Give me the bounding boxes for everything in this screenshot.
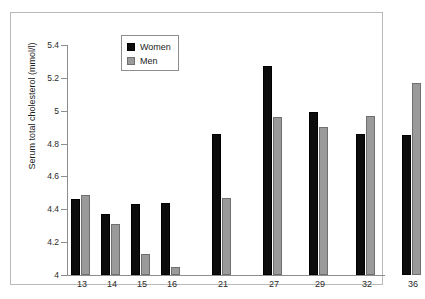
x-axis-tick-label: 16 (157, 279, 187, 289)
x-axis-tick-label: 14 (97, 279, 127, 289)
bar-men (222, 198, 231, 275)
y-axis-tick (61, 242, 67, 243)
bar-men (141, 254, 150, 275)
legend-item-men: Men (127, 54, 173, 68)
x-axis-tick-label: 32 (352, 279, 382, 289)
bar-women (356, 134, 365, 275)
bar-women (402, 135, 411, 275)
bar-men (319, 127, 328, 275)
bar-women (212, 134, 221, 275)
bar-men (412, 83, 421, 275)
chart-legend: Women Men (121, 35, 179, 71)
x-axis-tick-label: 21 (208, 279, 238, 289)
x-axis-tick-label: 27 (259, 279, 289, 289)
bar-women (71, 199, 80, 275)
chart-frame: 44.24.44.64.855.25.4 Serum total cholest… (10, 12, 383, 285)
bar-men (273, 117, 282, 275)
y-axis-tick-label: 5.4 (47, 40, 59, 50)
bar-men (366, 116, 375, 275)
bar-group (356, 45, 376, 275)
y-axis-tick-label: 4.2 (47, 237, 59, 247)
x-axis-tick-label: 15 (127, 279, 157, 289)
bar-group (402, 45, 422, 275)
bar-group (101, 45, 121, 275)
bar-group (263, 45, 283, 275)
bar-group (71, 45, 91, 275)
gray-square-icon (127, 57, 135, 65)
bar-group (309, 45, 329, 275)
legend-label-women: Women (140, 42, 171, 52)
y-axis-tick (61, 78, 67, 79)
black-square-icon (127, 43, 135, 51)
bar-women (161, 203, 170, 275)
y-axis-tick-label: 4.4 (47, 204, 59, 214)
legend-item-women: Women (127, 40, 173, 54)
y-axis-tick (61, 111, 67, 112)
y-axis-tick-label: 5.2 (47, 73, 59, 83)
y-axis-title: Serum total cholesterol (mmol/l) (27, 6, 37, 206)
x-axis-tick-label: 36 (398, 279, 425, 289)
legend-label-men: Men (140, 56, 158, 66)
bar-men (171, 267, 180, 275)
x-axis-tick-label: 29 (305, 279, 335, 289)
y-axis-tick-label: 5 (54, 106, 59, 116)
bar-women (131, 204, 140, 275)
bar-group (161, 45, 181, 275)
y-axis-tick (61, 275, 67, 276)
x-axis-tick-label: 13 (67, 279, 97, 289)
y-axis-tick-label: 4 (54, 270, 59, 280)
bar-group (212, 45, 232, 275)
bar-men (111, 224, 120, 275)
y-axis-tick-label: 4.6 (47, 171, 59, 181)
bar-women (309, 112, 318, 275)
y-axis-tick (61, 176, 67, 177)
y-axis-tick (61, 45, 67, 46)
y-axis-tick (61, 209, 67, 210)
y-axis-tick-label: 4.8 (47, 139, 59, 149)
plot-area (67, 45, 384, 275)
y-axis-tick (61, 144, 67, 145)
bar-women (101, 214, 110, 275)
bar-group (131, 45, 151, 275)
bar-women (263, 66, 272, 275)
x-axis-line (67, 275, 385, 276)
bar-men (81, 195, 90, 276)
